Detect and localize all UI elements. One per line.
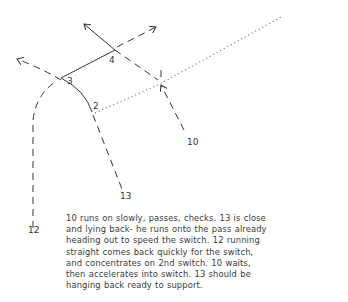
point-label-4: 4 — [109, 55, 115, 65]
caption: 10 runs on slowly, passes, checks. 13 is… — [66, 213, 346, 291]
point-label-2: 2 — [93, 101, 99, 111]
caption-line: straight comes back quickly for the swit… — [66, 247, 346, 258]
caption-line: and lying back- he runs onto the pass al… — [66, 224, 346, 235]
pass-4-to-upper-left — [84, 24, 115, 50]
player-12-run — [33, 82, 55, 228]
caption-line: then accelerates into switch. 13 should … — [66, 269, 346, 280]
caption-line: heading out to speed the switch. 12 runn… — [66, 235, 346, 246]
run-3-to-left-arrow — [17, 59, 61, 80]
caption-line: hanging back ready to support. — [66, 280, 346, 291]
player-label-13: 13 — [120, 191, 131, 201]
dotted-ball-line — [95, 16, 283, 113]
player-13-run — [93, 115, 122, 189]
player-label-12: 12 — [28, 225, 39, 235]
caption-line: 10 runs on slowly, passes, checks. 13 is… — [66, 213, 346, 224]
caption-line: and concentrates on 2nd switch. 10 waits… — [66, 258, 346, 269]
run-4-to-upper-right — [117, 27, 156, 47]
run-4-to-10-point — [115, 50, 158, 80]
point-label-3: 3 — [67, 76, 73, 86]
pass-curve-3-to-2 — [61, 78, 92, 112]
pass-3-to-4 — [61, 50, 115, 78]
player-label-10: 10 — [187, 137, 199, 147]
player-10-run — [161, 85, 184, 130]
